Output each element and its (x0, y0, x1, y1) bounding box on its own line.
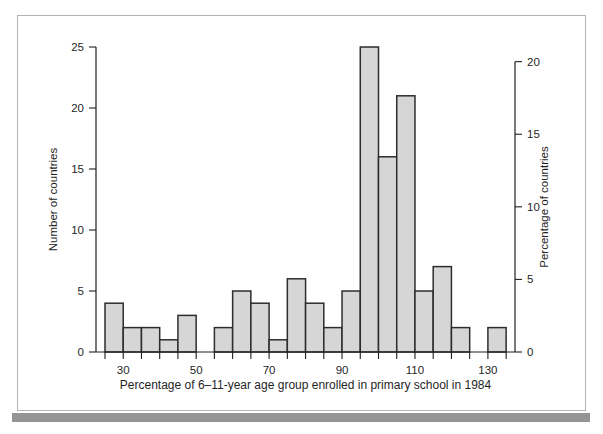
histogram-bar (379, 157, 397, 352)
y-right-tick-label: 15 (527, 128, 540, 140)
x-tick-label: 110 (406, 364, 424, 376)
y-right-tick-label: 0 (527, 346, 533, 358)
histogram-bar (178, 315, 196, 352)
x-tick-label: 90 (336, 364, 349, 376)
y-left-tick-label: 0 (78, 346, 84, 358)
histogram-bar (105, 303, 123, 352)
x-tick-label: 30 (117, 364, 130, 376)
histogram-bar (123, 328, 141, 352)
histogram-bar (141, 328, 159, 352)
y-left-tick-label: 20 (71, 102, 84, 114)
histogram-bar (397, 96, 415, 352)
y-left-tick-label: 5 (78, 285, 84, 297)
histogram-chart: 05101520250510152030507090110130Percenta… (0, 0, 603, 434)
histogram-bar (488, 328, 506, 352)
histogram-bar (287, 279, 305, 352)
x-tick-label: 50 (190, 364, 203, 376)
histogram-bar (251, 303, 269, 352)
histogram-bar (214, 328, 232, 352)
histogram-bar (360, 47, 378, 352)
histogram-bar (342, 291, 360, 352)
y-left-tick-label: 10 (71, 224, 84, 236)
bottom-accent-bar (12, 413, 590, 422)
histogram-bar (306, 303, 324, 352)
y-left-tick-label: 15 (71, 163, 84, 175)
histogram-bar (433, 267, 451, 352)
histogram-bar (324, 328, 342, 352)
x-tick-label: 70 (263, 364, 276, 376)
y-axis-right-title: Percentage of countries (538, 146, 550, 268)
x-axis-title: Percentage of 6–11-year age group enroll… (120, 378, 492, 392)
histogram-bar (269, 340, 287, 352)
histogram-bar (415, 291, 433, 352)
histogram-bar (160, 340, 178, 352)
y-right-tick-label: 20 (527, 56, 540, 68)
y-right-tick-label: 5 (527, 273, 533, 285)
y-axis-left-title: Number of countries (47, 147, 59, 251)
y-left-tick-label: 25 (71, 41, 84, 53)
x-tick-label: 130 (478, 364, 497, 376)
histogram-bar (233, 291, 251, 352)
figure: 05101520250510152030507090110130Percenta… (0, 0, 603, 434)
histogram-bar (451, 328, 469, 352)
